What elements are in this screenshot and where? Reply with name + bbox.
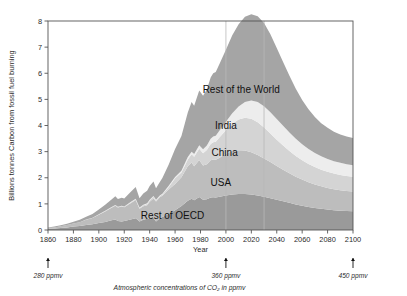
x-tick-label-2040: 2040	[269, 235, 285, 244]
series-label-rest-of-the-world: Rest of the World	[203, 84, 280, 95]
x-tick-label-1940: 1940	[141, 235, 157, 244]
x-tick-label-2060: 2060	[294, 235, 310, 244]
x-axis-title: Year	[193, 245, 208, 254]
series-label-india: India	[215, 120, 237, 131]
y-tick-label-7: 7	[38, 43, 42, 52]
y-tick-label-2: 2	[38, 173, 42, 182]
x-tick-label-1880: 1880	[65, 235, 81, 244]
y-tick-label-3: 3	[38, 147, 42, 156]
y-tick-label-6: 6	[38, 69, 42, 78]
x-tick-label-1920: 1920	[116, 235, 132, 244]
y-tick-label-8: 8	[38, 17, 42, 26]
x-tick-label-1860: 1860	[40, 235, 56, 244]
series-label-usa: USA	[211, 177, 232, 188]
y-axis-title: Billions tonnes Carbon from fossil fuel …	[7, 50, 16, 200]
series-label-rest-of-oecd: Rest of OECD	[141, 210, 204, 221]
series-label-china: China	[212, 147, 239, 158]
y-tick-label-5: 5	[38, 95, 42, 104]
chart-figure: 1860188019001920194019601980200020202040…	[0, 0, 407, 296]
annotation-label-ppmv-1860: 280 ppmv	[33, 272, 64, 280]
y-tick-label-1: 1	[38, 200, 42, 209]
y-tick-label-0: 0	[38, 226, 42, 235]
annotation-label-ppmv-2000: 360 ppmv	[211, 272, 241, 280]
stacked-area-chart: 1860188019001920194019601980200020202040…	[0, 0, 407, 296]
x-tick-label-2020: 2020	[243, 235, 259, 244]
annotation-label-ppmv-2100: 450 ppmv	[339, 272, 369, 280]
x-tick-label-2000: 2000	[218, 235, 234, 244]
x-tick-label-1900: 1900	[91, 235, 107, 244]
x-tick-label-2100: 2100	[345, 235, 361, 244]
y-tick-label-4: 4	[38, 121, 42, 130]
x-tick-label-1980: 1980	[192, 235, 208, 244]
x-tick-label-1960: 1960	[167, 235, 183, 244]
x-tick-label-2080: 2080	[319, 235, 335, 244]
chart-caption: Atmospheric concentrations of CO₂ in ppm…	[113, 284, 246, 292]
